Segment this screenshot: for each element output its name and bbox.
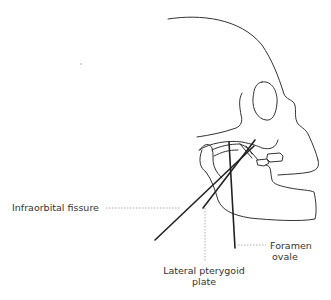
maxilla-outline [199,140,278,150]
stray-mark [80,63,81,64]
mandible-outline [200,150,316,221]
label-foramen-line1: Foramen [270,240,312,251]
label-foramen-ovale: Foramen ovale [270,240,312,262]
cranium-outline [168,17,318,160]
condyle-outline [200,144,222,178]
label-lateral-pterygoid-plate: Lateral pterygoid plate [150,265,258,287]
label-foramen-line2: ovale [270,251,312,262]
zygomatic-outline [197,93,242,137]
needle-foramen-ovale [229,142,235,248]
label-infraorbital-fissure: Infraorbital fissure [12,202,99,213]
face-outline [278,160,319,175]
label-lateral-line1: Lateral pterygoid [150,265,258,276]
orbit-outline [253,82,277,120]
tooth-upper [267,153,283,162]
label-lateral-line2: plate [150,276,258,287]
